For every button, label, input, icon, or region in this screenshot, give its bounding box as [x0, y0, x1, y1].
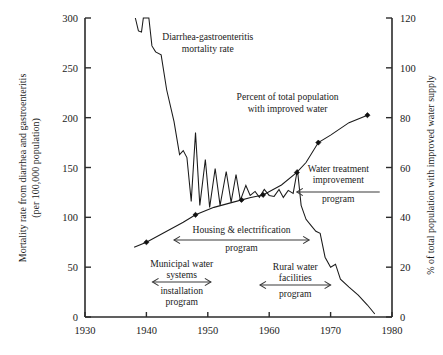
data-point-marker: [260, 192, 265, 197]
left-tick-label: 200: [62, 113, 78, 124]
left-axis-title-line1: Mortality rate from diarrhea and gastroe…: [17, 74, 28, 263]
data-point-marker: [365, 113, 370, 118]
dual-axis-time-series-chart: 1930194019501960197019800501001502002503…: [0, 0, 443, 355]
municipal-water-label-line2: systems: [167, 269, 198, 280]
municipal-water-label-line3: installation: [160, 285, 203, 296]
left-tick-label: 300: [62, 13, 78, 24]
water-treatment-label-line2: improvement: [313, 174, 364, 185]
mortality-series-label-line1: Diarrhea-gastroenteritis: [162, 31, 253, 42]
left-tick-label: 150: [62, 163, 78, 174]
left-tick-label: 0: [73, 312, 78, 323]
left-tick-label: 50: [68, 262, 79, 273]
right-tick-label: 20: [400, 262, 411, 273]
x-tick-label: 1980: [382, 325, 403, 336]
x-tick-label: 1950: [197, 325, 218, 336]
data-point-marker: [316, 140, 321, 145]
rural-water-label-line1: Rural water: [273, 261, 319, 272]
municipal-water-label-line4: program: [165, 296, 198, 307]
right-tick-label: 120: [400, 13, 416, 24]
x-tick-label: 1940: [136, 325, 157, 336]
chart-figure: 1930194019501960197019800501001502002503…: [0, 0, 443, 355]
left-axis-title-line2: (per 100,000 population): [30, 118, 42, 218]
right-tick-label: 60: [400, 163, 411, 174]
left-tick-label: 100: [62, 212, 78, 223]
water-treatment-label-line1: Water treatment: [308, 163, 370, 174]
right-axis-title-text: % of total population with improved wate…: [425, 75, 436, 275]
left-axis-title: Mortality rate from diarrhea and gastroe…: [17, 74, 42, 263]
mortality-series-label-line2: mortality rate: [182, 43, 234, 54]
water-series-label-line1: Percent of total population: [237, 91, 339, 102]
municipal-water-label-line1: Municipal water: [150, 258, 214, 269]
x-tick-label: 1960: [259, 325, 280, 336]
housing-electrification-label-line1: Housing & electrification: [193, 224, 291, 235]
data-point-marker: [193, 212, 198, 217]
right-tick-label: 100: [400, 63, 416, 74]
housing-electrification-label-line2: program: [225, 242, 258, 253]
left-tick-label: 250: [62, 63, 78, 74]
rural-water-label-line3: program: [279, 288, 312, 299]
data-point-marker: [144, 240, 149, 245]
right-axis-title: % of total population with improved wate…: [425, 75, 436, 275]
x-tick-label: 1930: [75, 325, 96, 336]
water-series-label-line2: with improved water: [248, 103, 329, 114]
x-tick-label: 1970: [320, 325, 341, 336]
right-tick-label: 0: [400, 312, 405, 323]
rural-water-label-line2: facilities: [279, 272, 312, 283]
right-tick-label: 40: [400, 212, 411, 223]
water-treatment-label-line3: program: [322, 193, 355, 204]
right-tick-label: 80: [400, 113, 411, 124]
